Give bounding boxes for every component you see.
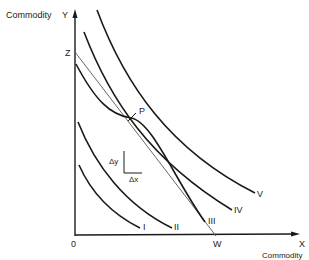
curve-label-IV: IV	[234, 206, 243, 215]
indifference-curve-II	[78, 122, 172, 228]
origin-label: 0	[71, 240, 76, 249]
y-axis-letter: Y	[62, 11, 68, 20]
curve-label-V: V	[257, 190, 263, 199]
curve-label-III: III	[208, 217, 216, 226]
delta-y-label: Δy	[109, 158, 118, 166]
budget-end-label-w: W	[213, 240, 222, 249]
indifference-curve-IV	[84, 32, 232, 210]
y-axis-label: Commodity	[6, 11, 52, 20]
indifference-curve-III	[76, 64, 205, 222]
indifference-diagram	[0, 0, 309, 260]
curve-label-II: II	[174, 223, 179, 232]
y-axis-arrow-icon	[73, 9, 78, 18]
budget-line	[75, 52, 216, 236]
x-axis-label: Commodity	[262, 252, 302, 260]
x-axis	[75, 234, 293, 235]
budget-start-label-z: Z	[65, 49, 71, 58]
point-p-label: P	[139, 107, 145, 116]
indifference-curve-V	[97, 10, 255, 193]
curve-label-I: I	[143, 223, 146, 232]
delta-x-label: Δx	[129, 176, 138, 184]
x-axis-letter: X	[299, 240, 305, 249]
x-axis-arrow-icon	[291, 232, 300, 237]
slope-triangle	[124, 151, 142, 173]
